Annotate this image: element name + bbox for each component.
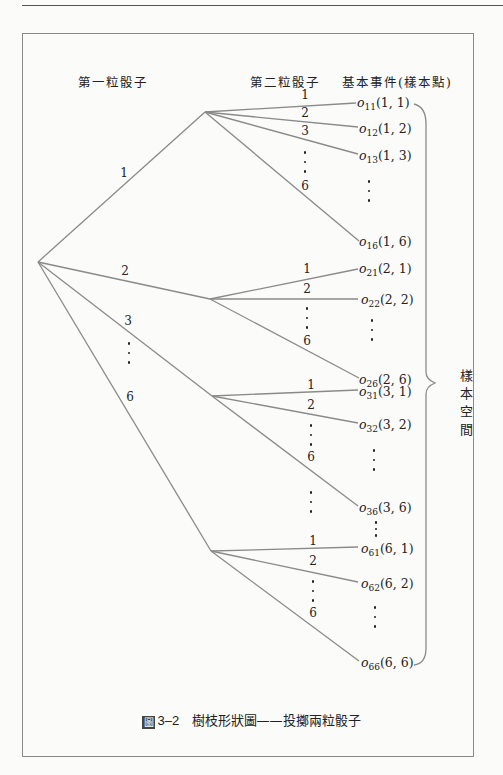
second-branch-label: 2 [307, 398, 315, 412]
first-branch-label: 6 [126, 390, 134, 404]
ellipsis-vertical [310, 580, 316, 609]
outcome-o36: o36(3, 6) [359, 500, 412, 517]
ellipsis-vertical [371, 449, 377, 478]
second-branch-label: 1 [303, 262, 311, 276]
outcome-o61: o61(6, 1) [361, 541, 414, 558]
outcome-o12: o12(1, 2) [359, 121, 412, 138]
second-branch-label: 3 [301, 124, 309, 138]
tree-diagram-lines [0, 0, 503, 775]
outcome-o66: o66(6, 6) [361, 655, 414, 672]
header-first-die: 第一粒骰子 [78, 72, 148, 91]
ellipsis-vertical [372, 606, 378, 635]
outcome-o13: o13(1, 3) [359, 148, 412, 165]
ellipsis-vertical [308, 424, 314, 453]
first-branch-label: 1 [120, 166, 128, 180]
ellipsis-vertical [304, 307, 310, 336]
outcome-o11: o11(1, 1) [357, 95, 410, 112]
outcome-o16: o16(1, 6) [359, 234, 412, 251]
figure-title: 樹枝形狀圖——投擲兩粒骰子 [192, 713, 361, 728]
figure-number: 3–2 [157, 713, 179, 728]
second-branch-label: 2 [309, 554, 317, 568]
ellipsis-vertical [366, 180, 372, 209]
outcome-o21: o21(2, 1) [359, 261, 412, 278]
ellipsis-vertical [302, 151, 308, 180]
second-branch-label: 6 [309, 606, 317, 620]
second-branch-label: 2 [303, 282, 311, 296]
figure-icon: 圖 [142, 716, 155, 729]
sample-space-label: 樣 本 空 間 [458, 367, 474, 439]
outcome-o62: o62(6, 2) [361, 576, 414, 593]
second-branch-label: 6 [303, 334, 311, 348]
outcome-o22: o22(2, 2) [361, 292, 414, 309]
figure-caption: 圖3–2 樹枝形狀圖——投擲兩粒骰子 [0, 710, 503, 729]
header-basic-events: 基本事件(樣本點) [342, 72, 452, 91]
outcome-o31: o31(3, 1) [359, 384, 412, 401]
ellipsis-vertical [126, 342, 132, 371]
second-branch-label: 6 [301, 179, 309, 193]
ellipsis-vertical [369, 319, 375, 348]
second-branch-label: 2 [301, 106, 309, 120]
second-branch-label: 6 [307, 450, 315, 464]
outcome-o32: o32(3, 2) [359, 417, 412, 434]
first-branch-label: 3 [124, 314, 132, 328]
second-branch-label: 1 [309, 534, 317, 548]
header-second-die: 第二粒骰子 [250, 72, 320, 91]
second-branch-label: 1 [301, 88, 309, 102]
first-branch-label: 2 [121, 264, 129, 278]
ellipsis-vertical [308, 491, 314, 520]
second-branch-label: 1 [307, 378, 315, 392]
